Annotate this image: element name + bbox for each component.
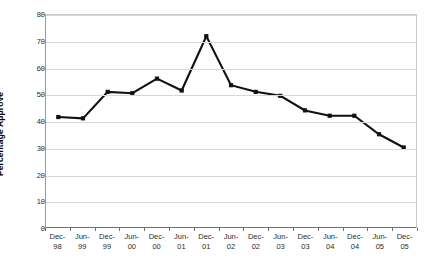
data-point xyxy=(57,115,60,118)
y-tick-label: 50 xyxy=(11,92,45,100)
data-point xyxy=(229,84,232,87)
y-tick-label: 40 xyxy=(11,118,45,126)
gridline xyxy=(46,42,416,43)
series-line-percentage-approve xyxy=(58,36,403,147)
x-tick-mark xyxy=(417,228,418,231)
y-tick-label: 20 xyxy=(11,172,45,180)
x-tick-mark xyxy=(45,228,46,231)
x-tick-mark xyxy=(219,228,220,231)
x-tick-mark xyxy=(243,228,244,231)
gridline xyxy=(46,122,416,123)
x-axis-labels: Dec-98Jun-99Dec-99Jun-00Dec-00Jun-01Dec-… xyxy=(45,232,417,266)
x-tick-mark xyxy=(169,228,170,231)
x-tick-mark xyxy=(194,228,195,231)
y-tick-label: 10 xyxy=(11,199,45,207)
y-tick-label: 80 xyxy=(11,11,45,19)
data-point xyxy=(303,109,306,112)
data-point xyxy=(106,90,109,93)
data-point xyxy=(254,90,257,93)
data-point xyxy=(205,35,208,38)
y-tick-label: 70 xyxy=(11,38,45,46)
gridline xyxy=(46,95,416,96)
plot-area xyxy=(45,14,417,228)
data-point xyxy=(328,114,331,117)
gridline xyxy=(46,69,416,70)
x-tick-label-line: 05 xyxy=(384,242,426,252)
x-tick-mark xyxy=(144,228,145,231)
x-tick-mark xyxy=(392,228,393,231)
data-point xyxy=(155,77,158,80)
gridline xyxy=(46,15,416,16)
data-point xyxy=(180,89,183,92)
x-tick-mark xyxy=(70,228,71,231)
x-tick-mark xyxy=(268,228,269,231)
series-markers xyxy=(57,35,406,149)
x-tick-mark xyxy=(367,228,368,231)
x-tick-mark xyxy=(343,228,344,231)
x-tick-mark xyxy=(95,228,96,231)
gridline xyxy=(46,149,416,150)
data-point xyxy=(353,114,356,117)
x-tick-label-line: Dec- xyxy=(384,232,426,242)
x-tick-mark xyxy=(293,228,294,231)
y-tick-label: 60 xyxy=(11,65,45,73)
series-svg xyxy=(46,15,416,227)
data-point xyxy=(377,133,380,136)
y-axis-ticks: 01020304050607080 xyxy=(0,14,45,228)
x-tick-mark xyxy=(119,228,120,231)
line-chart: Percentage Approve 01020304050607080 Dec… xyxy=(0,0,446,268)
x-tick-label: Dec-05 xyxy=(384,232,426,252)
data-point xyxy=(81,117,84,120)
gridline xyxy=(46,202,416,203)
gridline xyxy=(46,176,416,177)
y-tick-label: 30 xyxy=(11,145,45,153)
x-tick-mark xyxy=(318,228,319,231)
